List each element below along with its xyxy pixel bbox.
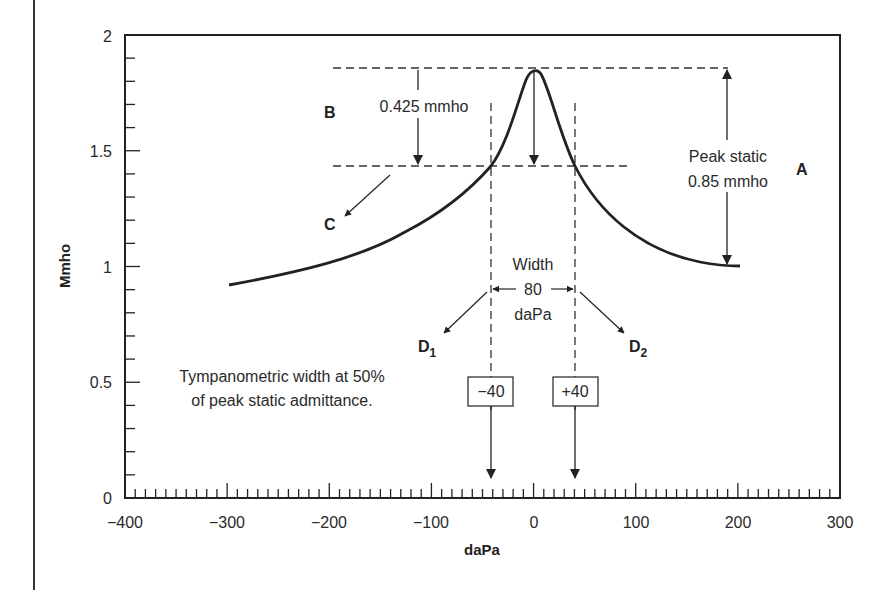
- x-tick-label: −100: [413, 514, 449, 531]
- x-tick-label: −400: [107, 514, 143, 531]
- label-D2: D2: [629, 338, 648, 360]
- d2-pointer-arrow: [580, 292, 624, 333]
- caption-line-1: Tympanometric width at 50%: [179, 368, 384, 385]
- y-tick-label: 1.5: [90, 143, 112, 160]
- width-label: Width: [513, 256, 554, 273]
- x-tick-label: −200: [311, 514, 347, 531]
- label-B: B: [324, 104, 336, 121]
- plus40-label: +40: [561, 383, 588, 400]
- y-axis-ticks: [125, 58, 140, 475]
- x-tick-label: 100: [623, 514, 650, 531]
- peak-static-value: 0.85 mmho: [688, 173, 768, 190]
- label-A: A: [796, 161, 808, 178]
- minus40-label: −40: [477, 383, 504, 400]
- half-drop-label: 0.425 mmho: [380, 98, 469, 115]
- x-tick-label: 200: [725, 514, 752, 531]
- x-axis-title: daPa: [464, 541, 501, 558]
- x-axis-labels: −400 −300 −200 −100 0 100 200 300: [107, 514, 853, 531]
- d1-pointer-arrow: [444, 292, 487, 333]
- y-axis-title: Mmho: [56, 244, 73, 288]
- label-C: C: [324, 216, 336, 233]
- y-tick-label: 0: [103, 490, 112, 507]
- y-axis-labels: 0 0.5 1 1.5 2: [90, 28, 112, 507]
- tympanogram-chart: 0 0.5 1 1.5 2 −400 −300 −200 −100 0 100 …: [0, 0, 894, 590]
- peak-static-label: Peak static: [689, 148, 767, 165]
- width-unit: daPa: [514, 306, 551, 323]
- x-tick-label: 0: [530, 514, 539, 531]
- y-tick-label: 0.5: [90, 374, 112, 391]
- width-value: 80: [524, 281, 542, 298]
- y-tick-label: 1: [103, 259, 112, 276]
- label-D1: D1: [418, 338, 437, 360]
- c-pointer-arrow: [345, 175, 390, 216]
- x-tick-label: 300: [827, 514, 854, 531]
- y-tick-label: 2: [103, 28, 112, 45]
- x-tick-label: −300: [209, 514, 245, 531]
- caption-line-2: of peak static admittance.: [191, 392, 372, 409]
- tympanogram-curve: [229, 71, 740, 285]
- x-axis-ticks: [135, 483, 830, 498]
